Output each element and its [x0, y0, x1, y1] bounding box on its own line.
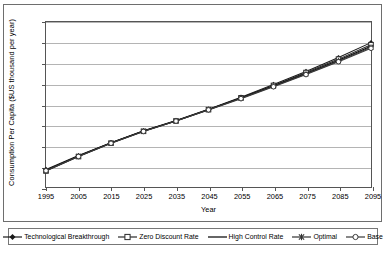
legend-item-5[interactable]: Base — [346, 232, 383, 242]
legend-item-1[interactable]: Technological Breakthrough — [3, 232, 109, 242]
x-axis-tick — [308, 187, 309, 191]
x-axis-tick — [177, 187, 178, 191]
y-axis-title: Consumption Per Capita ($US thousand per… — [7, 4, 16, 202]
legend-item-2[interactable]: Zero Discount Rate — [118, 232, 198, 242]
legend-marker-cross-icon — [292, 232, 311, 242]
x-axis-tick — [242, 187, 243, 191]
chart-figure: Consumption Per Capita ($US thousand per… — [0, 0, 386, 253]
x-axis-tick — [210, 187, 211, 191]
legend-label: Optimal — [313, 233, 337, 241]
x-axis-title: Year — [45, 205, 372, 214]
x-axis-tick — [79, 187, 80, 191]
x-axis-tick-label: 2095 — [353, 192, 386, 201]
x-axis-tick — [275, 187, 276, 191]
legend-label: High Control Rate — [229, 233, 284, 241]
x-axis-tick — [111, 187, 112, 191]
series-layer — [46, 22, 371, 187]
x-axis-tick — [340, 187, 341, 191]
legend-marker-circle-icon — [346, 232, 365, 242]
legend-label: Zero Discount Rate — [139, 233, 198, 241]
series-1 — [43, 40, 373, 172]
legend-marker-diamond-icon — [3, 232, 22, 242]
legend-item-4[interactable]: Optimal — [292, 232, 337, 242]
x-axis-tick — [373, 187, 374, 191]
x-axis-tick — [46, 187, 47, 191]
legend-marker-none-icon — [208, 232, 227, 242]
chart-legend: Technological BreakthroughZero Discount … — [8, 228, 378, 245]
legend-item-3[interactable]: High Control Rate — [208, 232, 284, 242]
x-axis-tick — [144, 187, 145, 191]
legend-label: Technological Breakthrough — [24, 233, 109, 241]
legend-marker-square-icon — [118, 232, 137, 242]
plot-area: -2.004.006.008.0010.0012.0014.0016.00199… — [45, 21, 372, 188]
legend-label: Base — [367, 233, 383, 241]
